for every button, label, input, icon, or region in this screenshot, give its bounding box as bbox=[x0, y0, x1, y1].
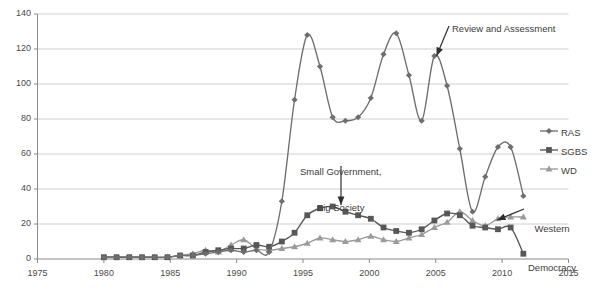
annotation-small-government-big-society: Small Government, Big Society bbox=[300, 142, 381, 238]
annotation-wd-line2: Democracy bbox=[528, 261, 576, 274]
x-axis-tick-label: 1975 bbox=[16, 268, 60, 278]
y-axis-tick-label: 140 bbox=[2, 8, 31, 18]
y-axis-tick-label: 60 bbox=[2, 148, 31, 158]
legend-label-wd: WD bbox=[561, 165, 577, 176]
x-axis-tick-label: 2005 bbox=[414, 268, 458, 278]
x-axis-tick-label: 1980 bbox=[82, 268, 126, 278]
x-axis-tick-label: 1995 bbox=[281, 268, 325, 278]
annotation-sgbs-line2: Big Society bbox=[300, 202, 381, 214]
annotation-wd-line1: Western bbox=[528, 222, 576, 235]
chart-container: 020406080100120140 197519801985199019952… bbox=[0, 0, 601, 301]
x-axis-tick-label: 1990 bbox=[215, 268, 259, 278]
annotation-review-and-assessment: Review and Assessment bbox=[452, 23, 556, 35]
y-axis-tick-label: 0 bbox=[2, 253, 31, 263]
x-axis-tick-label: 1985 bbox=[148, 268, 192, 278]
annotation-sgbs-line1: Small Government, bbox=[300, 166, 381, 178]
legend-swatches bbox=[540, 128, 558, 172]
legend-label-sgbs: SGBS bbox=[561, 146, 587, 157]
annotation-western-democracy: Western Democracy bbox=[528, 196, 576, 300]
y-axis-tick-label: 40 bbox=[2, 183, 31, 193]
y-axis-tick-label: 20 bbox=[2, 218, 31, 228]
y-axis-tick-label: 100 bbox=[2, 78, 31, 88]
x-axis-tick-label: 2010 bbox=[480, 268, 524, 278]
y-axis-tick-label: 120 bbox=[2, 43, 31, 53]
legend-label-ras: RAS bbox=[561, 127, 581, 138]
y-axis-tick-label: 80 bbox=[2, 113, 31, 123]
x-axis-tick-label: 2000 bbox=[347, 268, 391, 278]
